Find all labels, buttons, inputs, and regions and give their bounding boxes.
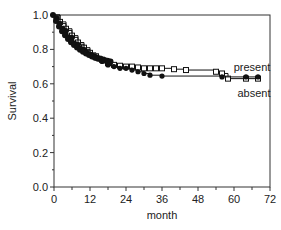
legend-present-label: present	[234, 61, 271, 73]
square-marker	[148, 66, 153, 71]
x-tick-label: 36	[156, 193, 168, 205]
circle-marker	[255, 74, 260, 79]
plot-frame	[54, 15, 270, 187]
circle-marker	[135, 69, 140, 74]
square-marker	[214, 69, 219, 74]
x-axis-label: month	[147, 209, 178, 221]
x-tick-label: 60	[228, 193, 240, 205]
square-marker	[172, 67, 177, 72]
circle-marker	[243, 74, 248, 79]
x-axis-ticks: 0122436486072	[51, 187, 276, 205]
circle-marker	[111, 64, 116, 69]
circle-marker	[159, 73, 164, 78]
x-tick-label: 72	[264, 193, 276, 205]
x-tick-label: 0	[51, 193, 57, 205]
circle-marker	[147, 73, 152, 78]
circle-marker	[129, 67, 134, 72]
y-axis-ticks: 0.00.20.40.60.81.0	[33, 9, 54, 193]
series-layer	[50, 12, 261, 81]
y-axis-label: Survival	[6, 81, 18, 120]
legend-absent-label: absent	[237, 87, 270, 99]
y-tick-label: 0.2	[33, 147, 48, 159]
square-marker	[184, 68, 189, 73]
x-tick-label: 24	[120, 193, 132, 205]
x-tick-label: 48	[192, 193, 204, 205]
circle-marker	[117, 66, 122, 71]
y-tick-label: 1.0	[33, 9, 48, 21]
circle-marker	[141, 71, 146, 76]
y-tick-label: 0.4	[33, 112, 48, 124]
circle-marker	[123, 66, 128, 71]
square-marker	[154, 66, 159, 71]
y-tick-label: 0.6	[33, 78, 48, 90]
circle-marker	[219, 74, 224, 79]
y-tick-label: 0.8	[33, 43, 48, 55]
x-tick-label: 12	[84, 193, 96, 205]
square-marker	[142, 66, 147, 71]
survival-chart: 0.00.20.40.60.81.0 0122436486072 Surviva…	[0, 0, 281, 230]
y-tick-label: 0.0	[33, 181, 48, 193]
square-marker	[160, 66, 165, 71]
